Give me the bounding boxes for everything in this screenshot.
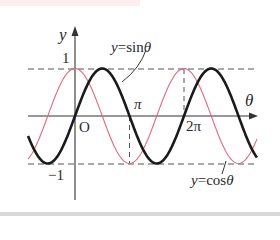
x-tick-2pi-label: 2π <box>186 119 201 134</box>
cos-label-theta: θ <box>226 172 233 188</box>
y-tick-1-label: 1 <box>62 51 70 66</box>
y-tick-minus1-label: −1 <box>48 168 64 183</box>
sin-curve-label: y=sinθ <box>111 40 151 55</box>
x-axis-label: θ <box>245 92 253 109</box>
origin-label: O <box>79 120 90 135</box>
bottom-edge-strip <box>0 212 280 216</box>
cos-label-func: =cos <box>198 172 226 188</box>
y-axis-arrow-icon <box>72 26 79 36</box>
sin-label-y: y <box>111 39 118 55</box>
sin-label-theta: θ <box>144 39 151 55</box>
x-tick-pi-label: π <box>134 97 142 112</box>
x-tick-2pi-text: 2π <box>186 118 201 134</box>
cos-curve-label: y=cosθ <box>191 173 234 188</box>
cos-label-y: y <box>191 172 198 188</box>
x-axis-arrow-icon <box>249 113 258 120</box>
sin-label-func: =sin <box>118 39 144 55</box>
y-axis-label: y <box>59 26 67 43</box>
